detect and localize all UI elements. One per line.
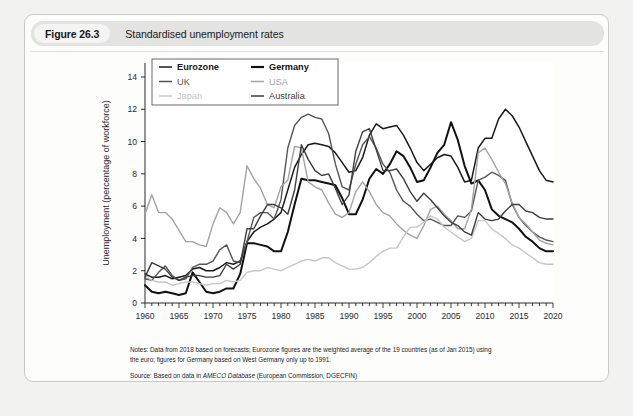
figure-header-band: Figure 26.3 Standardised unemployment ra… [31, 21, 604, 46]
legend-label-uk: UK [177, 77, 191, 87]
notes-line-2: the euro; figures for Germany based on W… [130, 355, 560, 365]
x-axis-tick-label: 2020 [543, 311, 562, 321]
x-axis-tick-label: 1970 [203, 311, 222, 321]
y-axis-tick-label: 6 [132, 201, 137, 211]
figure-card: Figure 26.3 Standardised unemployment ra… [24, 14, 609, 382]
y-axis-tick-label: 12 [127, 104, 137, 114]
x-axis-tick-label: 1990 [339, 311, 358, 321]
x-axis-tick-label: 1995 [373, 311, 392, 321]
legend-label-japan: Japan [177, 91, 202, 101]
source-suffix: (European Commission, DGECFIN) [255, 372, 357, 379]
unemployment-line-chart: 0246810121419601965197019751980198519901… [31, 53, 604, 325]
chart-plot-area: 0246810121419601965197019751980198519901… [31, 53, 604, 325]
y-axis-title: Unemployment (percentage of workforce) [101, 100, 111, 266]
legend-label-usa: USA [269, 77, 289, 87]
y-axis-tick-label: 0 [132, 298, 137, 308]
figure-screenshot: Figure 26.3 Standardised unemployment ra… [0, 0, 633, 416]
x-axis-tick-label: 2015 [509, 311, 528, 321]
y-axis-tick-label: 14 [127, 72, 137, 82]
notes-line-1: Notes: Data from 2018 based on forecasts… [130, 345, 560, 355]
x-axis-tick-label: 1975 [237, 311, 256, 321]
legend-label-germany: Germany [269, 62, 310, 72]
x-axis-tick-label: 1960 [135, 311, 154, 321]
figure-number-badge: Figure 26.3 [34, 24, 110, 43]
x-axis-tick-label: 1965 [169, 311, 188, 321]
y-axis-tick-label: 2 [132, 266, 137, 276]
x-axis-tick-label: 1980 [271, 311, 290, 321]
figure-notes: Notes: Data from 2018 based on forecasts… [130, 345, 560, 381]
x-axis-tick-label: 2010 [475, 311, 494, 321]
y-axis-tick-label: 8 [132, 169, 137, 179]
y-axis-tick-label: 4 [132, 234, 137, 244]
source-prefix: Source: Based on data in [130, 372, 203, 379]
figure-title: Standardised unemployment rates [125, 28, 283, 40]
x-axis-tick-label: 2000 [407, 311, 426, 321]
x-axis-tick-label: 2005 [441, 311, 460, 321]
source-database-name: AMECO Database [203, 372, 255, 379]
legend-label-australia: Australia [269, 91, 306, 101]
y-axis-tick-label: 10 [127, 137, 137, 147]
x-axis-tick-label: 1985 [305, 311, 324, 321]
legend-label-eurozone: Eurozone [177, 62, 219, 72]
source-line: Source: Based on data in AMECO Database … [130, 371, 560, 381]
header-divider [31, 51, 604, 52]
